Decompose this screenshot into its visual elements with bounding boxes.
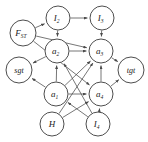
node-a1[interactable]: a1 — [44, 82, 68, 106]
node-tgt[interactable]: tgt — [118, 57, 144, 83]
edge-F_ST-to-I2 — [35, 24, 44, 28]
node-F_ST[interactable]: FST — [10, 20, 36, 46]
graph-canvas: FSTI2I3a2a3sgttgta1a4HI4 — [0, 0, 148, 142]
edge-a1-to-a3 — [65, 61, 90, 85]
edge-a4-to-tgt — [111, 80, 119, 86]
edge-a1-to-sgt — [32, 78, 45, 87]
edge-I4-to-a1 — [68, 102, 88, 116]
node-label-H: H — [48, 119, 56, 129]
node-a4[interactable]: a4 — [89, 82, 113, 106]
edge-H-to-a4 — [63, 102, 89, 118]
nodes-layer: FSTI2I3a2a3sgttgta1a4HI4 — [6, 6, 144, 136]
graph-diagram: FSTI2I3a2a3sgttgta1a4HI4 — [0, 0, 148, 142]
edge-a2-to-sgt — [33, 57, 46, 63]
node-H[interactable]: H — [40, 112, 64, 136]
edge-a3-to-tgt — [112, 58, 118, 62]
node-label-sgt: sgt — [14, 66, 24, 75]
node-a3[interactable]: a3 — [89, 39, 113, 63]
node-I4[interactable]: I4 — [86, 112, 110, 136]
node-I3[interactable]: I3 — [90, 6, 114, 30]
node-I2[interactable]: I2 — [46, 6, 70, 30]
node-label-tgt: tgt — [127, 66, 136, 75]
node-a2[interactable]: a2 — [45, 39, 69, 63]
node-sgt[interactable]: sgt — [6, 57, 32, 83]
